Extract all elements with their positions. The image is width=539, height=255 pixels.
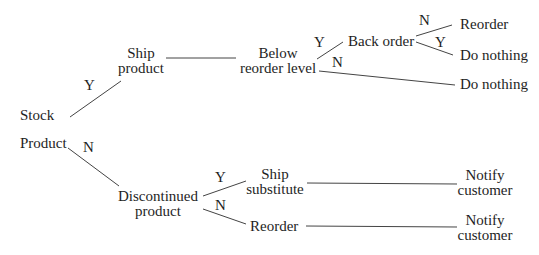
- edge-label-below-yes: Y: [314, 35, 325, 50]
- node-do-nothing-1: Do nothing: [460, 48, 528, 63]
- node-ship-product: Ship product: [115, 46, 167, 76]
- edge-stock-to-ship: [70, 81, 121, 117]
- node-do-nothing-2: Do nothing: [460, 77, 528, 92]
- node-below-reorder-level: Below reorder level: [237, 46, 319, 76]
- edge-below-to-donothing: [319, 71, 455, 85]
- node-back-order: Back order: [348, 34, 414, 49]
- edge-label-product-no: N: [83, 140, 94, 155]
- node-ship-substitute: Ship substitute: [245, 167, 305, 197]
- edge-label-stock-yes: Y: [84, 78, 95, 93]
- edge-label-disc-yes: Y: [215, 170, 226, 185]
- edge-label-back-yes: Y: [435, 35, 446, 50]
- edge-label-disc-no: N: [215, 198, 226, 213]
- node-reorder-bottom: Reorder: [250, 219, 298, 234]
- edge-shipsub-to-notify: [307, 183, 457, 184]
- edge-reorder-to-notify: [306, 226, 457, 227]
- node-discontinued-product: Discontinued product: [115, 189, 201, 219]
- node-notify-customer-2: Notify customer: [457, 213, 513, 243]
- node-stock: Stock: [20, 108, 54, 123]
- node-product: Product: [20, 136, 67, 151]
- node-reorder-top: Reorder: [460, 17, 508, 32]
- decision-tree-diagram: Stock Product Ship product Below reorder…: [0, 0, 539, 255]
- edge-label-below-no: N: [332, 55, 343, 70]
- node-notify-customer-1: Notify customer: [457, 168, 513, 198]
- edge-label-back-no: N: [419, 13, 430, 28]
